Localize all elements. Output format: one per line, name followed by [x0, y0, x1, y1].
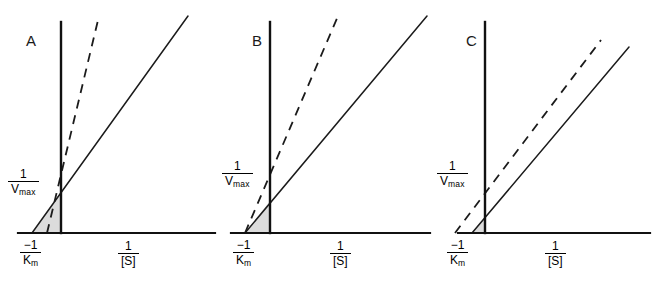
lineweaver-burk-figure: A 1 Vmax −1 Km 1 [S] B 1 Vmax [0, 0, 657, 294]
panel-c-uninhibited-line [472, 47, 629, 233]
panel-c-inhibited-line [455, 40, 601, 233]
panel-c-x-axis-label: 1 [S] [545, 240, 566, 267]
panel-c-x-axis-denominator: [S] [545, 253, 566, 268]
panel-c-x-intercept-numerator: −1 [447, 239, 468, 252]
panel-c-x-axis-numerator: 1 [545, 240, 566, 253]
panel-c-letter: C [466, 32, 477, 49]
panel-c: C 1 Vmax −1 Km 1 [S] [0, 0, 657, 294]
panel-c-x-intercept-label: −1 Km [447, 239, 468, 267]
panel-c-y-intercept-numerator: 1 [437, 160, 468, 173]
panel-c-y-intercept-label: 1 Vmax [437, 160, 468, 188]
panel-c-x-intercept-denominator: Km [447, 252, 468, 268]
panel-c-y-intercept-denominator: Vmax [437, 173, 468, 189]
